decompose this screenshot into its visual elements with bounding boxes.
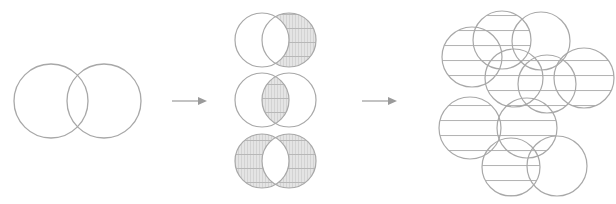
intersection-venn: [235, 73, 316, 127]
input-venn: [14, 64, 141, 138]
symmetric-difference-venn: [235, 134, 316, 188]
set-operations: [235, 13, 316, 188]
symmetric-difference-region: [235, 134, 316, 188]
arrow-1-icon: [172, 97, 207, 105]
diagram-svg: [0, 0, 616, 204]
difference-venn: [235, 13, 316, 67]
diagram-canvas: [0, 0, 616, 204]
venn-circle-2: [67, 64, 141, 138]
arrow-2-icon: [362, 97, 397, 105]
circle-cluster: [439, 11, 614, 196]
